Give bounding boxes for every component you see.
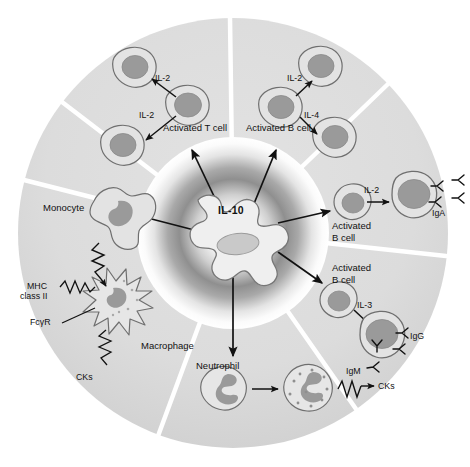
label-cks-neutrophil: CKs — [378, 381, 395, 392]
label-igg: IgG — [410, 331, 424, 342]
iga-antibody-4 — [452, 193, 464, 203]
label-activated-b-cell-iga-line2: B cell — [332, 232, 355, 243]
label-mhc-class-ii-line2: class II — [20, 291, 47, 302]
label-macrophage: Macrophage — [141, 340, 194, 351]
label-cks-macrophage: CKs — [76, 372, 93, 383]
label-activated-b-cell: Activated B cell — [246, 122, 311, 133]
label-il2-t-lower: IL-2 — [139, 110, 154, 121]
label-il2-b-upper: IL-2 — [287, 73, 302, 84]
label-neutrophil: Neutrophil — [196, 360, 239, 371]
label-igm: IgM — [346, 366, 361, 377]
il10-signalling-diagram — [0, 0, 470, 467]
figure-canvas: Activated T cell Activated B cell IL-2 I… — [0, 0, 470, 467]
label-activated-t-cell: Activated T cell — [163, 122, 227, 133]
label-il3: IL-3 — [357, 300, 372, 311]
label-activated-b-cell-ig-line1: Activated — [332, 262, 371, 273]
label-activated-b-cell-iga-line1: Activated — [332, 220, 371, 231]
neutrophil-cell — [201, 366, 247, 410]
plasma-cell-igg-igm — [360, 311, 405, 358]
label-il2-iga: IL-2 — [364, 185, 379, 196]
plasma-cell-iga — [392, 171, 437, 218]
activated-neutrophil-cell — [284, 364, 333, 411]
label-activated-b-cell-ig-line2: B cell — [332, 274, 355, 285]
label-il4-b-lower: IL-4 — [304, 110, 319, 121]
label-il2-t-upper: IL-2 — [155, 73, 170, 84]
label-iga: IgA — [432, 208, 445, 219]
iga-antibody-3 — [452, 175, 464, 185]
activated-b-cell-igg — [320, 282, 357, 318]
label-fcgr: FcγR — [30, 317, 51, 328]
label-monocyte: Monocyte — [43, 202, 84, 213]
label-il10: IL-10 — [218, 205, 244, 216]
